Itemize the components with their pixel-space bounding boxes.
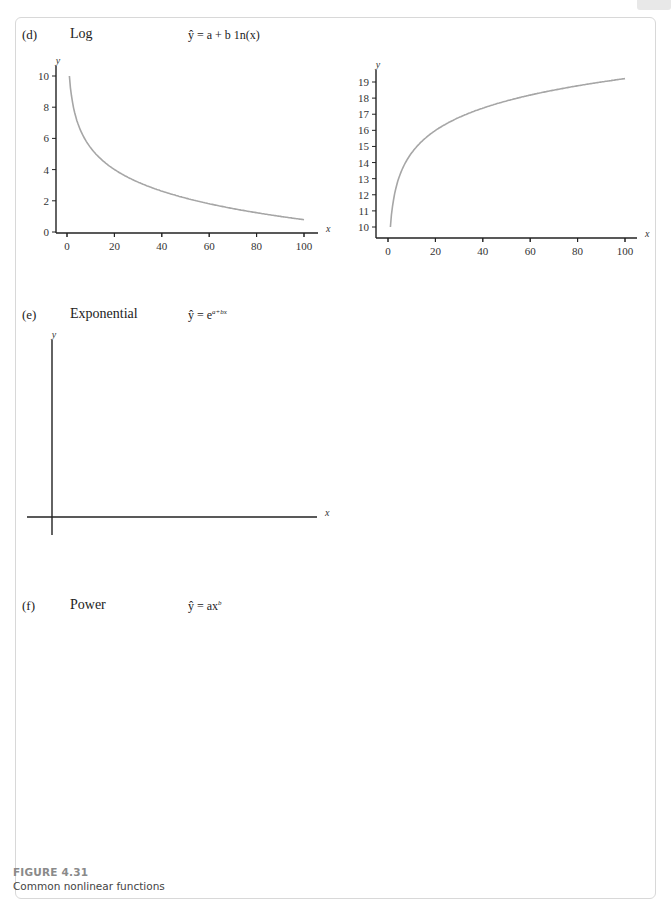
svg-text:y: y bbox=[51, 329, 57, 340]
chart-log-increasing: yx02040608010010111213141516171819 bbox=[358, 59, 650, 257]
svg-text:40: 40 bbox=[156, 240, 168, 252]
svg-text:16: 16 bbox=[358, 124, 370, 136]
svg-text:80: 80 bbox=[572, 245, 584, 257]
curve bbox=[390, 79, 625, 227]
svg-text:x: x bbox=[324, 507, 330, 518]
svg-text:6: 6 bbox=[44, 132, 50, 144]
svg-text:4: 4 bbox=[44, 164, 50, 176]
svg-text:20: 20 bbox=[430, 245, 442, 257]
figure-number: FIGURE 4.31 bbox=[13, 866, 88, 878]
svg-text:17: 17 bbox=[358, 108, 370, 120]
chart-exp-increasing: yx bbox=[27, 329, 330, 535]
svg-text:40: 40 bbox=[477, 245, 489, 257]
figure-caption: Common nonlinear functions bbox=[13, 880, 165, 892]
svg-text:11: 11 bbox=[358, 205, 369, 217]
plots-canvas: yx0204060801000246810 yx0204060801001011… bbox=[0, 0, 671, 911]
svg-text:18: 18 bbox=[358, 92, 370, 104]
svg-text:12: 12 bbox=[358, 189, 369, 201]
svg-text:15: 15 bbox=[358, 140, 370, 152]
svg-text:10: 10 bbox=[38, 70, 50, 82]
svg-text:80: 80 bbox=[251, 240, 263, 252]
svg-text:13: 13 bbox=[358, 173, 370, 185]
svg-text:x: x bbox=[325, 223, 331, 234]
svg-text:60: 60 bbox=[204, 240, 216, 252]
svg-text:20: 20 bbox=[109, 240, 121, 252]
svg-text:0: 0 bbox=[385, 245, 391, 257]
svg-text:0: 0 bbox=[64, 240, 70, 252]
svg-text:y: y bbox=[375, 59, 381, 70]
svg-text:100: 100 bbox=[617, 245, 634, 257]
svg-text:10: 10 bbox=[358, 221, 370, 233]
svg-text:14: 14 bbox=[358, 157, 370, 169]
svg-text:8: 8 bbox=[44, 101, 50, 113]
svg-text:60: 60 bbox=[525, 245, 537, 257]
svg-text:y: y bbox=[55, 55, 61, 66]
svg-text:2: 2 bbox=[44, 195, 50, 207]
svg-text:0: 0 bbox=[44, 226, 50, 238]
chart-log-decreasing: yx0204060801000246810 bbox=[38, 55, 331, 252]
svg-text:x: x bbox=[644, 228, 650, 239]
svg-text:100: 100 bbox=[296, 240, 313, 252]
svg-text:19: 19 bbox=[358, 76, 370, 88]
curve bbox=[69, 76, 304, 220]
